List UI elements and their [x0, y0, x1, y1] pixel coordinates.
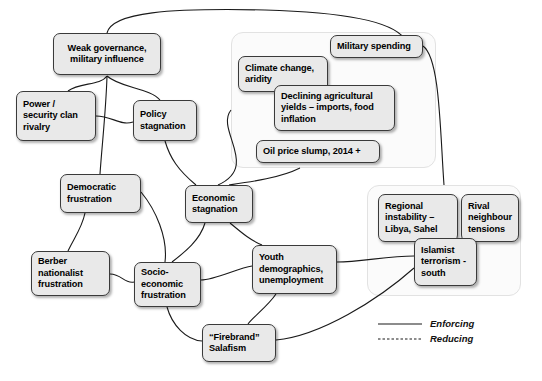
- link-weak-governance-to-power-clan: [68, 76, 107, 91]
- link-socio-economic-to-firebrand: [167, 307, 202, 341]
- node-label-socio-economic: Socio- economic frustration: [141, 267, 194, 301]
- node-label-firebrand-salafism: “Firebrand” Salafism: [209, 332, 269, 355]
- node-label-berber-frustration: Berber nationalist frustration: [38, 256, 103, 290]
- node-military-spending[interactable]: Military spending: [330, 35, 423, 58]
- node-firebrand-salafism[interactable]: “Firebrand” Salafism: [202, 324, 276, 362]
- link-democratic-to-socio-economic: [141, 192, 165, 262]
- node-rival-neighbour[interactable]: Rival neighbour tensions: [461, 194, 519, 242]
- diagram-canvas: Weak governance, military influencePower…: [0, 0, 542, 381]
- node-oil-price-slump[interactable]: Oil price slump, 2014 +: [256, 140, 380, 163]
- node-label-power-clan-rivalry: Power / security clan rivalry: [23, 99, 89, 133]
- node-label-policy-stagnation: Policy stagnation: [140, 109, 190, 132]
- link-democratic-to-berber: [68, 213, 85, 251]
- node-label-climate-change: Climate change, aridity: [245, 63, 321, 86]
- node-socio-economic[interactable]: Socio- economic frustration: [134, 262, 201, 307]
- node-democratic-frustration[interactable]: Democratic frustration: [60, 174, 141, 213]
- node-berber-frustration[interactable]: Berber nationalist frustration: [31, 251, 110, 296]
- node-label-weak-governance: Weak governance, military influence: [60, 43, 154, 66]
- node-label-oil-price-slump: Oil price slump, 2014 +: [263, 146, 373, 157]
- node-label-military-spending: Military spending: [337, 41, 416, 52]
- node-policy-stagnation[interactable]: Policy stagnation: [133, 100, 197, 141]
- legend-label-reducing: Reducing: [430, 333, 473, 344]
- link-weak-governance-to-democratic: [100, 76, 107, 174]
- node-label-economic-stagnation: Economic stagnation: [192, 193, 246, 216]
- node-weak-governance[interactable]: Weak governance, military influence: [53, 33, 161, 75]
- link-policy-to-economic: [165, 141, 196, 185]
- link-economic-to-youth: [230, 223, 262, 245]
- node-power-clan-rivalry[interactable]: Power / security clan rivalry: [16, 91, 96, 141]
- legend-label-enforcing: Enforcing: [430, 318, 474, 329]
- node-label-declining-yields: Declining agricultural yields – imports,…: [281, 91, 388, 125]
- link-economic-to-socio-economic: [172, 223, 205, 262]
- node-label-regional-instability: Regional instability – Libya, Sahel: [385, 201, 451, 235]
- node-regional-instability[interactable]: Regional instability – Libya, Sahel: [378, 194, 458, 242]
- node-economic-stagnation[interactable]: Economic stagnation: [185, 185, 253, 223]
- node-declining-yields[interactable]: Declining agricultural yields – imports,…: [274, 85, 395, 131]
- link-youth-to-firebrand: [248, 294, 276, 324]
- node-label-democratic-frustration: Democratic frustration: [67, 182, 134, 205]
- node-islamist-terrorism[interactable]: Islamist terrorism - south: [414, 238, 477, 286]
- link-socio-economic-to-youth: [201, 266, 252, 280]
- node-label-islamist-terrorism: Islamist terrorism - south: [421, 245, 470, 279]
- node-youth-demographics[interactable]: Youth demographics, unemployment: [252, 245, 337, 294]
- link-weak-governance-to-policy: [107, 76, 160, 100]
- link-berber-to-socio-economic: [110, 274, 134, 282]
- node-label-youth-demographics: Youth demographics, unemployment: [259, 252, 330, 286]
- node-label-rival-neighbour: Rival neighbour tensions: [468, 201, 512, 235]
- link-external-group-bottom-to-economic: [229, 168, 300, 185]
- link-power-clan-to-policy: [96, 116, 133, 123]
